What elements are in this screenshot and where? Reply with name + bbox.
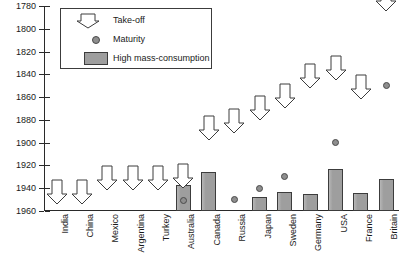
take-off-arrow [274, 83, 296, 109]
take-off-arrow [299, 63, 321, 89]
x-axis-tick-label: Mexico [111, 214, 120, 243]
chart-root: 1780180018201840186018801900192019401960… [0, 0, 409, 271]
x-axis-tick-label: China [86, 214, 95, 238]
maturity-dot [281, 173, 288, 180]
take-off-arrow [71, 179, 93, 205]
x-axis-tick-label: Canada [213, 214, 222, 246]
legend-item-high-mass-consumption: High mass-consumption [61, 49, 213, 69]
y-axis-tick-label: 1940 [2, 184, 36, 193]
x-axis-tick-label: Turkey [162, 214, 171, 241]
y-axis-tick-label: 1880 [2, 116, 36, 125]
y-axis-tick-label: 1960 [2, 207, 36, 216]
take-off-arrow [350, 74, 372, 100]
y-axis-tick-label: 1780 [2, 2, 36, 11]
bar [379, 179, 394, 211]
bar [201, 172, 216, 211]
y-axis-tick-label: 1860 [2, 93, 36, 102]
bar [353, 193, 368, 211]
bar [328, 169, 343, 211]
y-axis-tick-label: 1920 [2, 161, 36, 170]
bar [303, 194, 318, 211]
take-off-arrow [223, 108, 245, 134]
take-off-arrow [147, 165, 169, 191]
x-axis-tick-label: Australia [187, 214, 196, 249]
bar [252, 197, 267, 211]
y-axis-tick-label: 1800 [2, 25, 36, 34]
x-axis-tick-label: Russia [238, 214, 247, 242]
x-axis-tick-label: Japan [264, 214, 273, 239]
legend-label: Take-off [113, 15, 145, 26]
filled-circle-icon [71, 30, 105, 50]
legend-item-take-off: Take-off [61, 11, 213, 31]
take-off-arrow [122, 165, 144, 191]
x-axis-tick-label: Argentina [137, 214, 146, 253]
take-off-arrow [375, 0, 397, 12]
take-off-arrow [249, 95, 271, 121]
take-off-arrow [172, 163, 194, 189]
x-axis-tick-label: Britain [390, 214, 399, 240]
take-off-arrow [96, 165, 118, 191]
down-arrow-outline-icon [71, 11, 105, 31]
legend-label: Maturity [113, 34, 145, 45]
y-axis-tick-label: 1820 [2, 48, 36, 57]
legend-item-maturity: Maturity [61, 30, 213, 50]
bar [277, 192, 292, 211]
take-off-arrow [198, 115, 220, 141]
maturity-dot [332, 139, 339, 146]
legend: Take-off Maturity High mass-consumption [60, 8, 212, 69]
x-axis-tick-label: Sweden [289, 214, 298, 247]
gray-rectangle-icon [71, 49, 105, 69]
maturity-dot [256, 185, 263, 192]
y-axis-tick-inner [45, 211, 50, 212]
x-axis-tick-label: USA [340, 214, 349, 233]
x-axis-tick-label: France [365, 214, 374, 242]
legend-label: High mass-consumption [113, 53, 210, 64]
take-off-arrow [325, 55, 347, 81]
y-axis-tick-label: 1900 [2, 139, 36, 148]
maturity-dot [231, 196, 238, 203]
x-axis-tick-label: India [61, 214, 70, 234]
y-axis-tick-label: 1840 [2, 70, 36, 79]
y-axis-tick [39, 211, 44, 212]
maturity-dot [383, 82, 390, 89]
take-off-arrow [46, 179, 68, 205]
x-axis-tick-label: Germany [314, 214, 323, 251]
